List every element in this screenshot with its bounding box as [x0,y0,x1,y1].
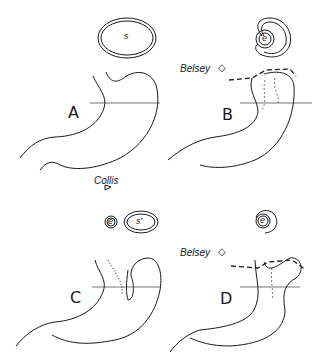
panel-c-label: C [70,288,81,307]
panel-a-section-s: s [124,31,129,41]
panel-c-procedure: Collis [94,175,118,186]
panel-d-procedure: Belsey [180,247,210,258]
panel-b-stomach [168,18,312,167]
panel-d-stomach [170,211,306,352]
panel-c-section-s: s' [136,216,142,226]
arrow-icon: ◇ [218,246,226,257]
panel-a-stomach [20,18,160,170]
diagram-canvas [0,0,321,364]
panel-d-section-e: e [260,215,265,225]
panel-c-stomach [16,185,161,346]
panel-b-label: B [222,105,233,124]
arrow-icon: ◇ [218,62,226,73]
panel-d-label: D [220,289,232,308]
panel-a-label: A [68,103,79,122]
panel-c-section-e: e [108,216,113,226]
panel-b-procedure: Belsey [180,63,210,74]
panel-b-section-e: e [262,33,267,43]
